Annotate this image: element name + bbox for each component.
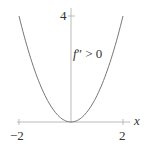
x-tick-label-neg2: −2: [10, 128, 24, 143]
x-tick-label-2: 2: [119, 128, 126, 143]
y-tick-label-4: 4: [60, 8, 67, 23]
annotation-rest: ″ > 0: [77, 46, 103, 61]
x-axis-label: x: [133, 113, 140, 128]
annotation-second-derivative: f″ > 0: [73, 46, 102, 61]
convex-function-plot: 4 −2 2 x f″ > 0: [0, 0, 151, 148]
